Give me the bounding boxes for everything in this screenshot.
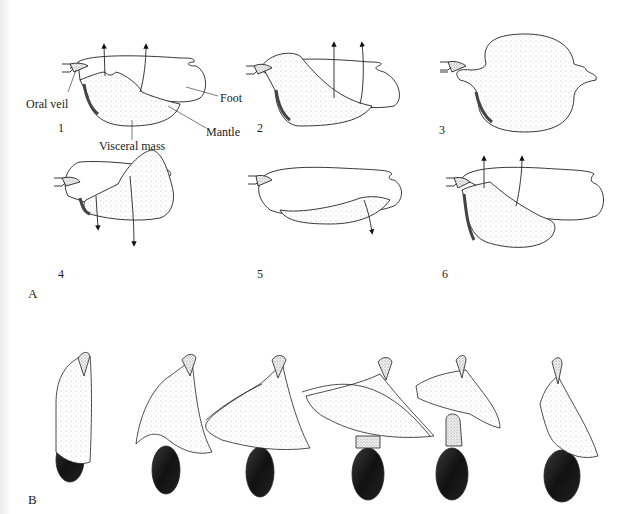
stage-5-drawing [248,167,402,232]
stage-2-drawing [246,44,399,126]
label-oral-veil: Oral veil [26,98,68,110]
panel-b-stage-4 [302,358,434,501]
diagram-canvas [0,0,644,514]
stage-number-2: 2 [257,122,263,134]
stage-number-3: 3 [439,124,445,136]
panel-label-b: B [28,493,37,506]
label-foot: Foot [220,92,242,104]
panel-b-stage-5 [416,356,500,501]
panel-b-stage-6 [540,358,598,502]
panel-label-a: A [28,287,37,300]
stage-number-6: 6 [442,268,448,280]
panel-b-stage-1 [56,352,92,482]
label-visceral-mass: Visceral mass [99,140,165,152]
panel-b-stage-3 [206,356,310,498]
stage-1-drawing [62,46,218,140]
panel-b-stage-2 [136,354,212,494]
stage-4-drawing [54,150,174,244]
stage-6-drawing [446,158,604,247]
label-mantle: Mantle [206,126,240,138]
stage-number-4: 4 [58,268,64,280]
stage-number-5: 5 [257,268,263,280]
stage-3-drawing [440,34,596,132]
stage-number-1: 1 [58,122,64,134]
